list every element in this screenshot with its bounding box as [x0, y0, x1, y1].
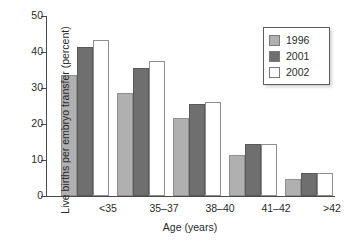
bar-2001-41–42: [245, 144, 261, 196]
bar-2001-38–40: [189, 104, 205, 196]
bar-2002-<35: [93, 40, 109, 196]
y-tick-label: 50: [31, 9, 43, 21]
legend-swatch-icon: [269, 35, 280, 46]
legend: 199620012002: [263, 27, 330, 85]
legend-swatch-icon: [269, 51, 280, 62]
bar-2002-41–42: [261, 144, 277, 196]
legend-label: 1996: [286, 34, 309, 46]
bar-1996-41–42: [229, 155, 245, 196]
bar-1996->42: [285, 179, 301, 196]
legend-item-2002: 2002: [269, 64, 324, 80]
legend-swatch-icon: [269, 67, 280, 78]
bar-1996-35–37: [117, 93, 133, 196]
bar-group: [173, 16, 221, 196]
bar-2002-38–40: [205, 102, 221, 196]
bar-2001->42: [301, 173, 317, 196]
y-tick-label: 0: [37, 189, 43, 201]
x-axis-line: [46, 196, 335, 197]
x-tick-label: >42: [292, 202, 352, 214]
y-tick-label: 10: [31, 153, 43, 165]
x-axis-title: Age (years): [46, 221, 334, 233]
legend-label: 2002: [286, 66, 309, 78]
bar-2002-35–37: [149, 61, 165, 196]
bar-1996-38–40: [173, 118, 189, 196]
legend-label: 2001: [286, 50, 309, 62]
y-axis-title: Live births per embryo transfer (percent…: [59, 25, 71, 215]
bar-2002->42: [317, 173, 333, 196]
y-tick-label: 20: [31, 117, 43, 129]
legend-item-2001: 2001: [269, 48, 324, 64]
legend-item-1996: 1996: [269, 32, 324, 48]
y-tick-label: 30: [31, 81, 43, 93]
y-tick-label: 40: [31, 45, 43, 57]
bar-2001-<35: [77, 47, 93, 196]
bar-group: [117, 16, 165, 196]
chart-figure: 01020304050 <3535–3738–4041–42>42 Live b…: [0, 0, 352, 248]
bar-2001-35–37: [133, 68, 149, 196]
